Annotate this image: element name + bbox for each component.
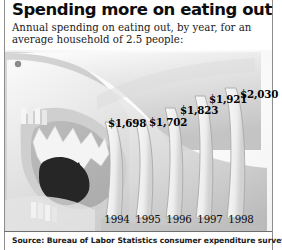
frame-rule-bottom	[4, 231, 272, 232]
source-note: Source: Bureau of Labor Statistics consu…	[12, 236, 282, 245]
infographic-panel: Spending more on eating out Annual spend…	[0, 0, 282, 250]
open-mouth-teeth-illustration	[5, 50, 272, 231]
year-label-1997: 1997	[197, 213, 223, 225]
bar-value-label-1998: $2,030	[240, 88, 278, 100]
bar-value-label-1995: $1,702	[149, 116, 187, 128]
frame-rule-right	[272, 0, 273, 250]
page-title: Spending more on eating out	[12, 1, 270, 19]
header: Spending more on eating out Annual spend…	[12, 1, 270, 45]
year-label-1998: 1998	[228, 213, 254, 225]
illustration-svg	[5, 50, 272, 231]
year-label-1995: 1995	[135, 213, 161, 225]
year-label-1994: 1994	[104, 213, 130, 225]
bar-value-label-1996: $1,823	[180, 104, 218, 116]
register-dot	[15, 61, 21, 67]
year-label-1996: 1996	[166, 213, 192, 225]
subtitle-deck: Annual spending on eating out, by year, …	[12, 22, 252, 45]
x-axis-year-labels: 1994 1995 1996 1997 1998	[104, 213, 264, 225]
bar-value-label-1994: $1,698	[108, 117, 146, 129]
